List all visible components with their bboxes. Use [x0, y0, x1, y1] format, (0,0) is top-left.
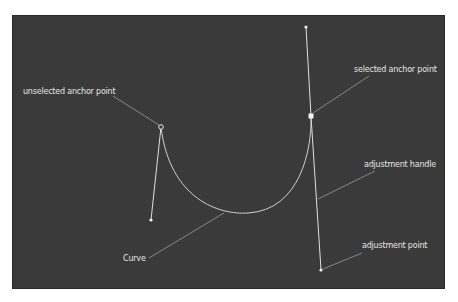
label-adjustment-handle: adjustment handle: [364, 160, 436, 169]
bezier-curve: [161, 116, 311, 213]
label-curve: Curve: [123, 254, 146, 263]
leader-curve: [149, 213, 224, 258]
leader-adjustment-handle: [318, 171, 375, 199]
label-selected-anchor: selected anchor point: [354, 65, 437, 74]
leader-unselected-anchor: [113, 96, 159, 125]
unselected-handle-line: [151, 127, 161, 220]
adjustment-handle-line: [311, 116, 321, 270]
bezier-diagram: unselected anchor point selected anchor …: [0, 0, 458, 302]
adjustment-point-icon[interactable]: [319, 268, 322, 271]
leader-adjustment-point: [323, 253, 362, 269]
label-unselected-anchor: unselected anchor point: [23, 87, 115, 96]
leader-selected-anchor: [313, 76, 369, 113]
top-handle-end-point-icon[interactable]: [304, 25, 307, 28]
unselected-anchor-point-icon[interactable]: [159, 125, 164, 130]
selected-anchor-point-icon[interactable]: [309, 114, 314, 119]
handle-end-point-icon[interactable]: [149, 218, 152, 221]
top-handle-line: [306, 27, 311, 116]
label-adjustment-point: adjustment point: [362, 241, 427, 250]
